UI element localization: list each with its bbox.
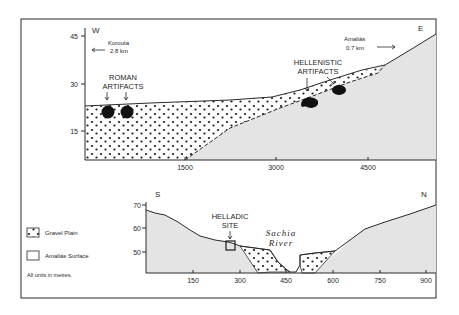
amalias-surface-north	[315, 205, 436, 273]
roman-artifact-marker	[121, 106, 134, 119]
korouta-label: Korouta	[108, 40, 130, 46]
legend-label-gravel-plain: Gravel Plain	[45, 230, 78, 236]
river-label: River	[268, 238, 294, 248]
x-tick-label: 300	[234, 277, 246, 284]
direction-east: E	[418, 24, 423, 33]
roman-artifacts-label: ARTIFACTS	[102, 82, 143, 91]
arrow-right-icon	[377, 45, 395, 49]
x-tick-label: 600	[327, 277, 339, 284]
y-tick-label: 30	[70, 81, 78, 88]
amalias-distance: 0.7 km	[346, 45, 364, 51]
units-note: All units in metres.	[27, 272, 72, 278]
arrow-down-icon	[105, 92, 128, 100]
arrow-left-icon	[92, 48, 105, 52]
x-tick-label: 450	[280, 277, 292, 284]
x-tick-label: 750	[374, 277, 386, 284]
arrow-down-icon	[228, 231, 232, 239]
helladic-label: HELLADIC	[212, 212, 249, 221]
direction-north: N	[421, 190, 427, 199]
x-tick-label: 1500	[177, 164, 193, 171]
hellenistic-artifacts-label: ARTIFACTS	[297, 67, 338, 76]
helladic-site-label: SITE	[222, 221, 239, 230]
hellenistic-label: HELLENISTIC	[294, 58, 343, 67]
legend-swatch-amalias	[27, 251, 39, 260]
roman-label: ROMAN	[109, 73, 137, 82]
geologic-cross-section-figure: 45 30 15 1500 3000 4500 W E Korouta 2.8 …	[0, 0, 459, 315]
direction-west: W	[92, 26, 100, 35]
legend-label-amalias-surface: Amaliás Surface	[45, 253, 89, 259]
y-tick-label: 60	[133, 225, 141, 232]
sachia-label: Sachia	[266, 228, 297, 238]
hellenistic-artifact-marker	[332, 85, 346, 95]
legend: Gravel Plain Amaliás Surface All units i…	[27, 228, 89, 278]
x-tick-label: 900	[420, 277, 432, 284]
bottom-cross-section: 70 60 50 150 300 450 600 750 900 S N HEL…	[133, 190, 436, 284]
x-tick-label: 150	[187, 277, 199, 284]
y-tick-label: 50	[133, 249, 141, 256]
direction-south: S	[155, 190, 160, 199]
y-tick-label: 70	[133, 202, 141, 209]
x-tick-label: 3000	[268, 164, 284, 171]
hellenistic-artifact-marker	[304, 98, 318, 108]
korouta-distance: 2.8 km	[110, 48, 128, 54]
roman-artifact-marker	[102, 106, 115, 119]
y-tick-label: 15	[70, 128, 78, 135]
legend-swatch-gravel	[27, 228, 39, 237]
amalias-label: Amaliás	[344, 36, 365, 42]
y-tick-label: 45	[70, 33, 78, 40]
top-cross-section: 45 30 15 1500 3000 4500 W E Korouta 2.8 …	[70, 24, 436, 171]
x-tick-label: 4500	[360, 164, 376, 171]
